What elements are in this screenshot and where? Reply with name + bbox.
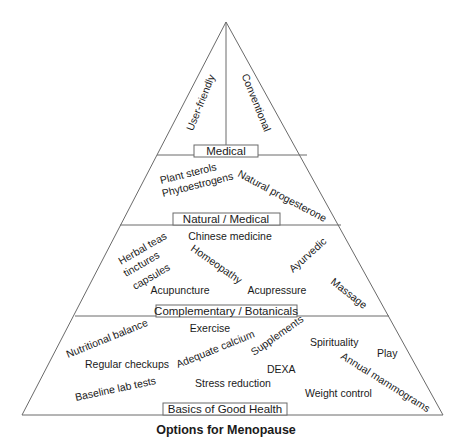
tier-label-complementary-botanicals: Complementary / Botanicals [154, 305, 298, 317]
item-play: Play [377, 347, 398, 359]
tier-complementary-botanicals: Chinese medicine Herbal teas tinctures c… [116, 229, 370, 317]
item-chinese-medicine: Chinese medicine [188, 230, 272, 242]
item-acupuncture: Acupuncture [151, 284, 210, 296]
tier-label-natural-medical: Natural / Medical [183, 213, 269, 225]
item-supplements: Supplements [248, 313, 305, 358]
tier-basics-of-good-health: Nutritional balance Exercise Adequate ca… [64, 313, 432, 415]
item-annual-mammograms: Annual mammograms [339, 350, 432, 415]
tier-label-medical: Medical [206, 145, 246, 157]
item-conventional: Conventional [240, 72, 274, 133]
tier-label-basics-of-good-health: Basics of Good Health [168, 403, 282, 415]
item-dexa: DEXA [267, 363, 296, 375]
item-stress-reduction: Stress reduction [195, 377, 271, 389]
item-spirituality: Spirituality [310, 336, 359, 348]
menopause-options-pyramid: User-friendly Conventional Medical Plant… [0, 0, 463, 445]
item-homeopathy: Homeopathy [189, 242, 245, 286]
item-baseline-lab-tests: Baseline lab tests [74, 374, 157, 403]
item-regular-checkups: Regular checkups [85, 358, 169, 370]
item-massage: Massage [329, 275, 370, 311]
item-weight-control: Weight control [305, 387, 372, 399]
item-exercise: Exercise [190, 322, 230, 334]
item-ayurvedic: Ayurvedic [286, 235, 328, 275]
diagram-title: Options for Menopause [156, 423, 296, 437]
item-nutritional-balance: Nutritional balance [64, 316, 149, 360]
tier-natural-medical: Plant sterols Phytoestrogens Natural pro… [159, 160, 329, 225]
item-acupressure: Acupressure [248, 284, 307, 296]
item-user-friendly: User-friendly [184, 72, 218, 132]
